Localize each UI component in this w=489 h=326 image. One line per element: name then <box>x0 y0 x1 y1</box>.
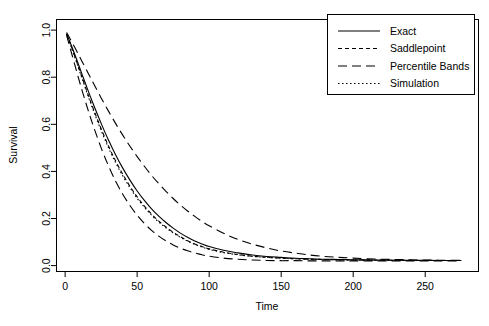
survival-plot: 050100150200250 0.00.20.40.60.81.0 Time … <box>0 0 489 326</box>
y-axis-title: Survival <box>7 126 19 163</box>
y-tick-label: 0.2 <box>40 211 52 226</box>
chart-canvas: 050100150200250 0.00.20.40.60.81.0 Time … <box>0 0 489 326</box>
y-tick-label: 0.0 <box>40 258 52 273</box>
legend-label: Percentile Bands <box>390 60 469 72</box>
x-axis-title: Time <box>256 300 279 312</box>
x-tick-label: 50 <box>131 280 143 292</box>
y-tick-label: 0.8 <box>40 70 52 85</box>
y-tick-label: 1.0 <box>40 23 52 38</box>
legend-label: Simulation <box>390 77 439 89</box>
y-tick-label: 0.6 <box>40 117 52 132</box>
x-tick-label: 150 <box>272 280 290 292</box>
x-tick-label: 250 <box>416 280 434 292</box>
x-tick-label: 100 <box>200 280 218 292</box>
legend-label: Saddlepoint <box>390 42 446 54</box>
chart-legend[interactable]: ExactSaddlepointPercentile BandsSimulati… <box>328 15 475 95</box>
x-tick-label: 0 <box>62 280 68 292</box>
y-tick-label: 0.4 <box>40 164 52 179</box>
legend-label: Exact <box>390 25 416 37</box>
x-tick-label: 200 <box>344 280 362 292</box>
